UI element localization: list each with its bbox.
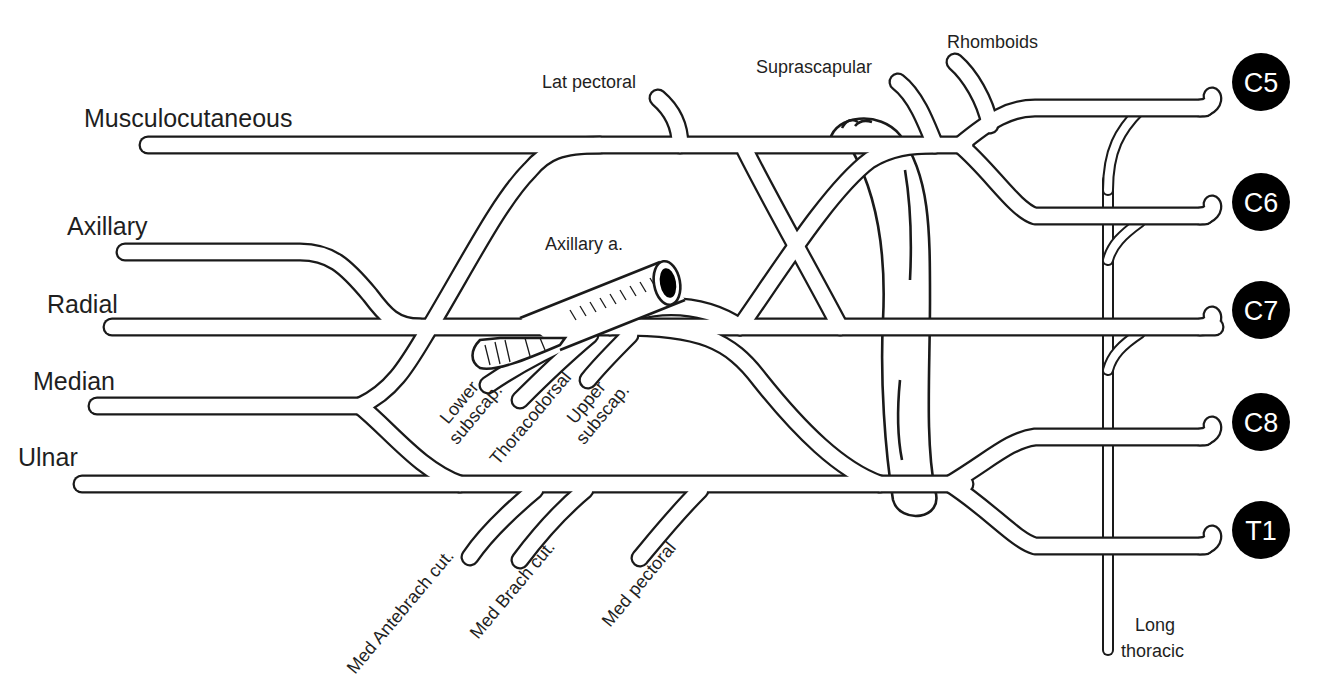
label-ulnar: Ulnar <box>18 443 78 471</box>
svg-text:C5: C5 <box>1244 68 1279 98</box>
root-badge-c6: C6 <box>1232 173 1290 231</box>
brachial-plexus-diagram: Musculocutaneous Axillary Radial Median … <box>0 0 1321 698</box>
svg-text:C8: C8 <box>1244 408 1279 438</box>
root-badge-t1: T1 <box>1232 501 1290 559</box>
label-suprascapular: Suprascapular <box>756 57 872 77</box>
root-badge-c7: C7 <box>1232 281 1290 339</box>
label-med-antebrach-cut: Med Antebrach cut. <box>343 546 458 678</box>
svg-text:T1: T1 <box>1245 516 1277 546</box>
root-badge-c5: C5 <box>1232 53 1290 111</box>
label-rhomboids: Rhomboids <box>947 32 1038 52</box>
label-lat-pectoral: Lat pectoral <box>542 72 636 92</box>
svg-text:C6: C6 <box>1244 188 1279 218</box>
svg-text:Med Antebrach cut.: Med Antebrach cut. <box>343 546 458 678</box>
label-axillary-artery: Axillary a. <box>545 234 623 254</box>
label-axillary: Axillary <box>67 212 148 240</box>
svg-text:C7: C7 <box>1244 296 1279 326</box>
svg-text:Long: Long <box>1135 615 1175 635</box>
long-thoracic-nerve <box>1108 110 1140 650</box>
label-median: Median <box>33 367 115 395</box>
root-badge-c8: C8 <box>1232 393 1290 451</box>
label-radial: Radial <box>47 290 118 318</box>
svg-text:thoracic: thoracic <box>1121 641 1184 661</box>
label-musculocutaneous: Musculocutaneous <box>84 104 292 132</box>
label-long-thoracic: Long thoracic <box>1121 615 1184 661</box>
